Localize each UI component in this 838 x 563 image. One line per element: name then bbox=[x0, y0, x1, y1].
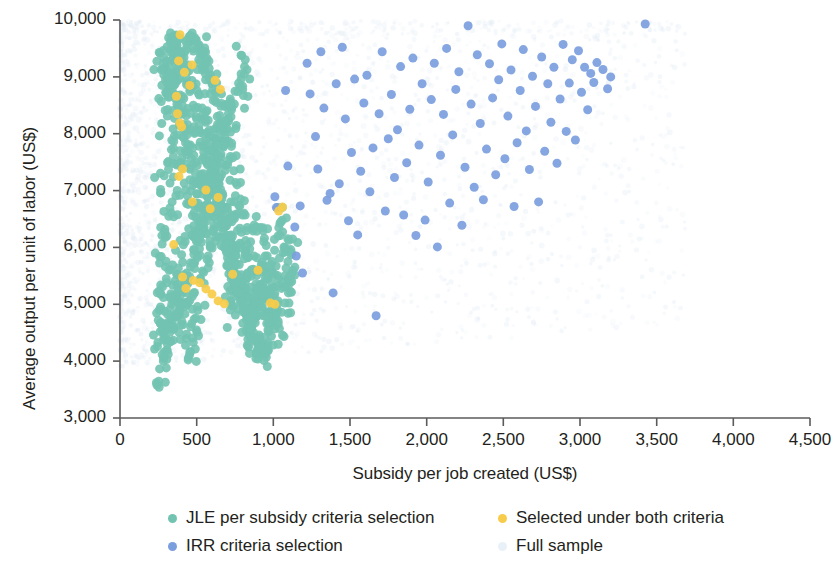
full-sample-point bbox=[566, 296, 570, 300]
full-sample-point bbox=[466, 31, 471, 36]
jle-point bbox=[156, 49, 165, 58]
full-sample-point bbox=[264, 29, 269, 34]
full-sample-point bbox=[400, 123, 404, 127]
full-sample-point bbox=[340, 342, 344, 346]
full-sample-point bbox=[327, 56, 332, 61]
full-sample-point bbox=[318, 336, 322, 340]
full-sample-point bbox=[436, 268, 441, 273]
full-sample-point bbox=[242, 154, 247, 159]
full-sample-point bbox=[360, 210, 365, 215]
jle-point bbox=[188, 143, 197, 152]
full-sample-point bbox=[370, 20, 375, 25]
full-sample-point bbox=[398, 228, 403, 233]
irr-series-point bbox=[408, 54, 417, 63]
full-sample-point bbox=[133, 106, 139, 112]
full-sample-point bbox=[465, 123, 469, 127]
jle-point bbox=[155, 364, 164, 373]
full-sample-point bbox=[132, 79, 137, 84]
full-sample-point bbox=[470, 237, 476, 243]
full-sample-point bbox=[129, 170, 132, 173]
full-sample-point bbox=[426, 244, 431, 249]
full-sample-point bbox=[556, 217, 561, 222]
full-sample-point bbox=[137, 230, 141, 234]
full-sample-point bbox=[329, 345, 335, 351]
full-sample-point bbox=[436, 332, 441, 337]
jle-point bbox=[186, 109, 195, 118]
full-sample-point bbox=[651, 143, 655, 147]
full-sample-point bbox=[512, 324, 515, 327]
full-sample-point bbox=[447, 65, 451, 69]
legend-marker-icon bbox=[498, 542, 507, 551]
full-sample-point bbox=[554, 41, 557, 44]
full-sample-point bbox=[666, 20, 669, 23]
full-sample-point bbox=[147, 226, 151, 230]
full-sample-point bbox=[294, 106, 298, 110]
full-sample-point bbox=[369, 89, 374, 94]
full-sample-point bbox=[533, 117, 536, 120]
full-sample-point bbox=[265, 142, 269, 146]
full-sample-point bbox=[274, 154, 279, 159]
irr-series-point bbox=[384, 134, 393, 143]
full-sample-point bbox=[409, 293, 413, 297]
full-sample-point bbox=[530, 306, 533, 309]
full-sample-point bbox=[129, 247, 133, 251]
jle-point bbox=[279, 282, 288, 291]
full-sample-point bbox=[310, 299, 314, 303]
full-sample-point bbox=[250, 60, 255, 65]
full-sample-point bbox=[235, 343, 240, 348]
full-sample-point bbox=[493, 194, 498, 199]
full-sample-point bbox=[150, 194, 155, 199]
full-sample-point bbox=[482, 303, 486, 307]
full-sample-point bbox=[604, 29, 609, 34]
full-sample-point bbox=[146, 144, 150, 148]
jle-point bbox=[264, 327, 273, 336]
full-sample-point bbox=[601, 112, 605, 116]
full-sample-point bbox=[310, 312, 315, 317]
jle-point bbox=[204, 116, 213, 125]
jle-point bbox=[157, 119, 166, 128]
jle-point bbox=[237, 70, 246, 79]
full-sample-point bbox=[372, 210, 377, 215]
full-sample-point bbox=[357, 30, 363, 36]
full-sample-point bbox=[465, 43, 469, 47]
full-sample-point bbox=[387, 168, 393, 174]
full-sample-point bbox=[142, 175, 146, 179]
full-sample-point bbox=[618, 55, 623, 60]
full-sample-point bbox=[358, 246, 362, 250]
full-sample-point bbox=[319, 151, 323, 155]
both-criteria-series-point bbox=[175, 172, 184, 181]
full-sample-point bbox=[605, 233, 610, 238]
full-sample-point bbox=[639, 224, 645, 230]
jle-point bbox=[221, 116, 230, 125]
legend-item[interactable]: Selected under both criteria bbox=[498, 508, 808, 528]
full-sample-point bbox=[591, 255, 595, 259]
legend-item[interactable]: Full sample bbox=[498, 536, 808, 556]
irr-series-point bbox=[442, 44, 451, 53]
irr-series-point bbox=[332, 79, 341, 88]
full-sample-point bbox=[136, 305, 140, 309]
full-sample-point bbox=[129, 212, 132, 215]
full-sample-point bbox=[133, 53, 137, 57]
full-sample-point bbox=[384, 192, 390, 198]
full-sample-point bbox=[399, 260, 405, 266]
full-sample-point bbox=[515, 310, 518, 313]
full-sample-point bbox=[151, 25, 157, 31]
full-sample-point bbox=[401, 26, 406, 31]
full-sample-point bbox=[369, 219, 375, 225]
full-sample-point bbox=[122, 327, 125, 330]
full-sample-point bbox=[482, 75, 487, 80]
full-sample-point bbox=[145, 255, 150, 260]
jle-point bbox=[236, 178, 245, 187]
full-sample-point bbox=[299, 43, 304, 48]
full-sample-point bbox=[128, 48, 133, 53]
full-sample-point bbox=[457, 175, 461, 179]
full-sample-point bbox=[565, 24, 570, 29]
legend-item[interactable]: JLE per subsidy criteria selection bbox=[168, 508, 498, 528]
full-sample-point bbox=[262, 91, 266, 95]
full-sample-point bbox=[409, 172, 414, 177]
legend-item[interactable]: IRR criteria selection bbox=[168, 536, 498, 556]
full-sample-point bbox=[308, 270, 312, 274]
full-sample-point bbox=[525, 307, 530, 312]
full-sample-point bbox=[369, 252, 375, 258]
full-sample-point bbox=[140, 318, 145, 323]
